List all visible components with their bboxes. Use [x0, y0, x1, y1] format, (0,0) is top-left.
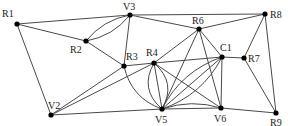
node-label-r9: R9	[270, 117, 282, 126]
edge-v3-r2	[86, 15, 130, 41]
node-label-v3: V3	[123, 1, 135, 12]
node-r7	[241, 55, 246, 60]
node-label-r6: R6	[192, 15, 204, 26]
node-label-c1: C1	[220, 42, 232, 53]
node-c1	[219, 54, 224, 59]
edge-r1-r2	[17, 24, 86, 41]
edge-c1-v5	[162, 57, 222, 109]
node-label-r4: R4	[146, 47, 158, 58]
edge-r4-c1	[154, 57, 222, 63]
node-v2	[48, 112, 53, 117]
node-label-v5: V5	[155, 114, 167, 125]
edge-r6-v5	[162, 29, 199, 109]
node-label-v2: V2	[48, 100, 60, 111]
edge-v3-r6	[130, 15, 199, 29]
node-label-r8: R8	[270, 9, 282, 20]
edge-r6-v6	[199, 29, 221, 108]
edge-r6-r4	[154, 29, 199, 63]
node-r2	[83, 38, 88, 43]
node-v5	[159, 106, 164, 111]
edge-r2-r3	[86, 41, 124, 66]
edge-c1-v6	[221, 57, 222, 108]
edge-c1-r7	[222, 57, 244, 58]
edge-v5-v6	[162, 108, 221, 109]
edge-r7-r8	[244, 14, 265, 58]
node-r9	[273, 110, 278, 115]
edge-r8-r9	[265, 14, 276, 113]
edge-r4-v2	[51, 63, 154, 115]
node-v6	[218, 105, 223, 110]
node-r4	[151, 60, 156, 65]
edge-v6-r9	[221, 108, 276, 113]
edge-r4-v6	[154, 63, 221, 108]
node-label-r3: R3	[126, 51, 138, 62]
node-label-r7: R7	[248, 53, 260, 64]
node-label-r2: R2	[70, 44, 82, 55]
node-r1	[14, 21, 19, 26]
edge-r6-r8	[199, 14, 265, 29]
network-graph: R1V3R2R3R4R6C1R7R8V2V5V6R9	[0, 0, 288, 126]
node-v3	[127, 12, 132, 17]
node-label-r1: R1	[2, 8, 14, 19]
node-r3	[121, 63, 126, 68]
edge-v2-v5	[51, 109, 162, 115]
edge-v3-r2	[86, 15, 130, 41]
edge-r3-v2	[51, 66, 124, 115]
node-label-v6: V6	[214, 113, 226, 124]
node-r6	[196, 26, 201, 31]
edge-r1-v2	[17, 24, 51, 115]
node-r8	[262, 11, 267, 16]
